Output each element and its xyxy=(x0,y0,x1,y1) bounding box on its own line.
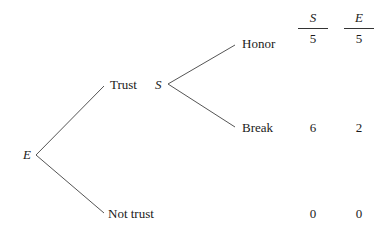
payoff-not-trust-e: 0 xyxy=(349,207,369,221)
move-honor: Honor xyxy=(242,37,275,51)
payoff-header-e: E 5 xyxy=(344,11,374,46)
move-not-trust: Not trust xyxy=(108,207,154,221)
payoff-not-trust-s: 0 xyxy=(303,207,323,221)
node-label-e: E xyxy=(23,148,31,162)
payoff-break-e: 2 xyxy=(349,121,369,135)
node-label-s: S xyxy=(155,78,162,92)
payoff-header-s-label: S xyxy=(298,11,328,28)
payoff-header-s: S 5 xyxy=(298,11,328,46)
edge-break xyxy=(168,84,235,127)
edge-not-trust xyxy=(36,155,104,213)
tree-edges xyxy=(0,0,387,236)
payoff-break-s: 6 xyxy=(303,121,323,135)
move-break: Break xyxy=(242,121,273,135)
payoff-honor-e: 5 xyxy=(344,29,374,46)
payoff-header-e-label: E xyxy=(344,11,374,28)
edge-trust xyxy=(36,86,104,155)
edge-honor xyxy=(168,45,235,84)
move-trust: Trust xyxy=(110,78,137,92)
game-tree-diagram: E Trust Not trust S Honor Break S 5 E 5 … xyxy=(0,0,387,236)
payoff-honor-s: 5 xyxy=(298,29,328,46)
